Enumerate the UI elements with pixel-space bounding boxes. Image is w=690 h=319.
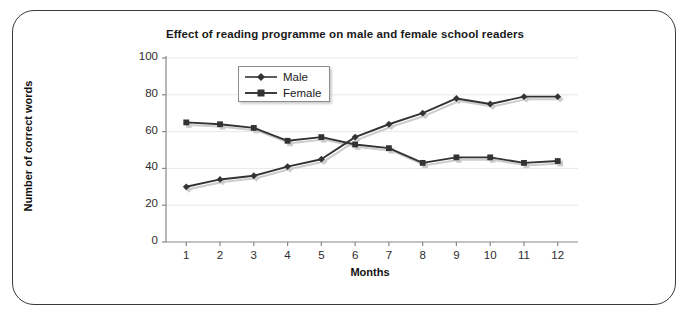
legend-marker-square-icon	[244, 86, 278, 100]
line-chart: Effect of reading programme on male and …	[0, 0, 690, 319]
y-tick-label: 40	[114, 160, 158, 172]
x-tick-label: 12	[543, 249, 573, 261]
x-tick-label: 5	[306, 249, 336, 261]
y-tick-label: 100	[114, 50, 158, 62]
y-tick-label: 20	[114, 197, 158, 209]
legend-marker-diamond-icon	[244, 70, 278, 84]
x-tick-label: 11	[509, 249, 539, 261]
legend-item-female: Female	[244, 85, 321, 101]
x-tick-label: 2	[205, 249, 235, 261]
legend-label-female: Female	[283, 87, 321, 99]
x-tick-label: 3	[239, 249, 269, 261]
legend-label-male: Male	[283, 71, 308, 83]
series-female	[183, 120, 560, 166]
legend-item-male: Male	[244, 69, 308, 85]
chart-legend: Male Female	[238, 66, 330, 102]
y-tick-label: 0	[114, 234, 158, 246]
x-tick-label: 8	[408, 249, 438, 261]
plot-canvas	[0, 0, 690, 319]
x-tick-label: 9	[441, 249, 471, 261]
x-tick-label: 4	[273, 249, 303, 261]
x-tick-label: 6	[340, 249, 370, 261]
y-tick-label: 80	[114, 87, 158, 99]
series-male-shadow	[185, 96, 563, 193]
x-tick-label: 1	[171, 249, 201, 261]
x-tick-label: 7	[374, 249, 404, 261]
series-male	[183, 93, 561, 190]
x-tick-label: 10	[475, 249, 505, 261]
y-tick-label: 60	[114, 124, 158, 136]
